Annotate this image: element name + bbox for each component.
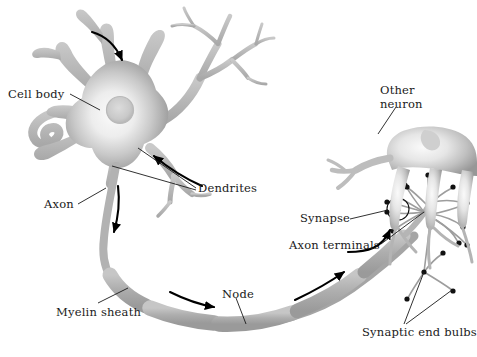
other-neuron-legs	[389, 166, 474, 230]
label-synaptic-end-bulbs: Synaptic end bulbs	[362, 326, 477, 340]
end-bulb	[450, 184, 455, 189]
label-synapse: Synapse	[300, 212, 350, 226]
label-axon-terminals: Axon terminals	[289, 239, 380, 253]
label-node: Node	[222, 288, 254, 302]
myelin-segment-1	[110, 275, 146, 306]
label-axon: Axon	[44, 198, 74, 212]
dendrite-branched-right	[163, 8, 274, 120]
label-myelin-sheath: Myelin sheath	[56, 306, 141, 320]
other-neuron-dendrites	[328, 158, 390, 188]
leader-synapse	[350, 210, 388, 219]
myelin-segment-2	[150, 308, 214, 323]
myelin-segment-3	[219, 313, 292, 324]
label-other-neuron-line2: neuron	[380, 97, 423, 111]
label-cell-body: Cell body	[8, 88, 65, 102]
axon-group	[103, 166, 430, 325]
neuron-illustration	[0, 0, 477, 357]
label-other-neuron: Other neuron	[380, 84, 440, 111]
dendrite-top-branch-a	[76, 10, 103, 44]
arrow-along-myelin	[170, 292, 214, 307]
neuron-diagram: Cell body Dendrites Axon Myelin sheath N…	[0, 0, 477, 357]
end-bulb	[404, 296, 409, 301]
label-other-neuron-line1: Other	[380, 83, 415, 97]
other-neuron-leg-right	[457, 170, 474, 228]
label-dendrites: Dendrites	[198, 182, 257, 196]
end-bulb	[440, 250, 445, 255]
axon-initial-segment	[103, 166, 116, 276]
leader-dendrites-lower	[112, 166, 196, 190]
nucleus	[107, 97, 134, 124]
leader-axon	[78, 188, 106, 204]
leader-end-bulbs-b	[406, 290, 452, 324]
